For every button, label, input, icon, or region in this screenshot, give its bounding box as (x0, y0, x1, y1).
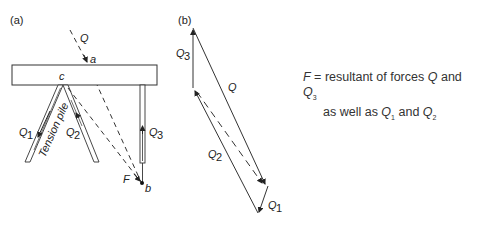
panel-b: (b) Q 3 Q Q 2 Q 1 (176, 14, 282, 214)
svg-text:3: 3 (184, 50, 190, 62)
note-line-2: as well as Q1 and Q2 (303, 105, 477, 125)
polygon-label-q1: Q 1 (268, 199, 282, 214)
svg-text:3: 3 (157, 129, 163, 141)
polygon-label-q3: Q 3 (176, 47, 190, 62)
pile-cap (12, 65, 157, 85)
polygon-f (197, 92, 262, 183)
polygon-q (193, 28, 265, 184)
svg-text:2: 2 (216, 151, 222, 163)
svg-text:1: 1 (27, 129, 33, 141)
svg-text:1: 1 (276, 202, 282, 214)
label-c: c (59, 70, 65, 82)
label-b: b (145, 182, 151, 194)
label-q2: Q 2 (66, 126, 80, 141)
polygon-q1 (259, 186, 268, 212)
label-q: Q (80, 32, 89, 44)
label-a: a (90, 53, 96, 65)
polygon-q2 (195, 91, 258, 213)
polygon-label-q2: Q 2 (208, 148, 222, 163)
panel-a: (a) Q a c F b Q 1 (10, 14, 163, 194)
svg-text:2: 2 (74, 129, 80, 141)
label-q3: Q 3 (149, 126, 163, 141)
polygon-label-q: Q (228, 81, 237, 93)
resultant-note: F = resultant of forces Q and Q3 as well… (303, 70, 477, 124)
label-f: F (123, 173, 131, 185)
q-arrow (84, 55, 87, 62)
note-line-1: F = resultant of forces Q and Q3 (303, 70, 477, 105)
panel-b-label: (b) (178, 14, 191, 26)
point-b (140, 181, 144, 185)
panel-a-label: (a) (10, 14, 23, 26)
label-q1: Q 1 (19, 126, 33, 141)
f-arrow (134, 174, 140, 181)
